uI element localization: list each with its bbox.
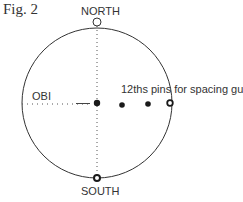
north-label: NORTH	[81, 6, 120, 17]
north-marker-icon	[93, 18, 101, 26]
south-label: SOUTH	[81, 186, 120, 197]
obi-label: OBI	[32, 91, 51, 102]
pin-icon-1	[119, 102, 125, 108]
pins-label: 12ths pins for spacing guide	[121, 84, 243, 95]
center-dot-icon	[94, 100, 100, 106]
pin-icon-3	[167, 100, 173, 106]
south-marker-icon	[94, 175, 100, 181]
pin-icon-2	[145, 101, 151, 107]
